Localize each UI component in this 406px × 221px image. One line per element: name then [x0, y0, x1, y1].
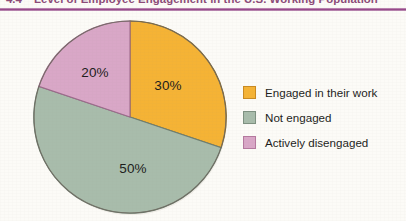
legend-item-actively-disengaged[interactable]: Actively disengaged [243, 130, 377, 155]
legend-swatch-not-engaged-icon [243, 111, 256, 124]
legend-swatch-actively-disengaged-icon [243, 136, 256, 149]
legend-label-engaged: Engaged in their work [265, 86, 377, 99]
legend-swatch-engaged-icon [243, 86, 256, 99]
pie-label-actively-disengaged: 20% [81, 65, 109, 80]
figure-container: 4.4 Level of Employee Engagement in the … [0, 0, 406, 221]
page-title: Level of Employee Engagement in the U.S.… [34, 0, 378, 5]
pie-label-engaged: 30% [154, 78, 182, 93]
chart-legend: Engaged in their work Not engaged Active… [243, 80, 377, 155]
legend-label-actively-disengaged: Actively disengaged [265, 136, 368, 149]
figure-number: 4.4 [6, 0, 22, 5]
pie-label-not-engaged: 50% [119, 161, 147, 176]
legend-label-not-engaged: Not engaged [265, 111, 332, 124]
title-divider [0, 8, 406, 11]
legend-item-not-engaged[interactable]: Not engaged [243, 105, 377, 130]
legend-item-engaged[interactable]: Engaged in their work [243, 80, 377, 105]
